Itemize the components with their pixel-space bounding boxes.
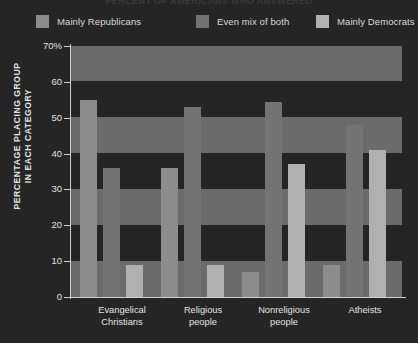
legend-item-even-mix-of-both[interactable]: Even mix of both xyxy=(196,13,289,29)
y-tick xyxy=(64,118,70,119)
bar-religious-people-mainly-democrats[interactable] xyxy=(207,265,224,297)
bar-atheists-even-mix-of-both[interactable] xyxy=(346,125,363,297)
bar-nonreligious-people-even-mix-of-both[interactable] xyxy=(265,102,282,298)
x-label-line2: people xyxy=(270,317,298,327)
x-tick-label-atheists: Atheists xyxy=(321,304,409,316)
y-tick-label: 30 xyxy=(12,183,62,194)
x-label-line2: Christians xyxy=(101,317,142,327)
y-tick-label: 60 xyxy=(12,76,62,87)
x-label-line1: Religious xyxy=(184,305,222,315)
bar-nonreligious-people-mainly-democrats[interactable] xyxy=(288,164,305,297)
bar-chart: PERCENT OF AMERICANS WHO ANSWERED Mainly… xyxy=(0,0,418,343)
y-tick-label: 70% xyxy=(12,40,62,51)
y-tick-label: 10 xyxy=(12,255,62,266)
legend-label: Mainly Democrats xyxy=(337,16,415,27)
bar-evangelical-christians-even-mix-of-both[interactable] xyxy=(103,168,120,297)
plot-band xyxy=(70,46,402,81)
legend-item-mainly-democrats[interactable]: Mainly Democrats xyxy=(316,13,415,29)
bar-atheists-mainly-republicans[interactable] xyxy=(323,265,340,297)
x-axis-line xyxy=(68,297,406,298)
legend-swatch-icon xyxy=(196,15,209,28)
chart-title: PERCENT OF AMERICANS WHO ANSWERED xyxy=(0,0,418,6)
legend-swatch-icon xyxy=(36,15,49,28)
y-tick-label: 50 xyxy=(12,112,62,123)
y-tick xyxy=(64,189,70,190)
chart-legend: Mainly Republicans Even mix of both Main… xyxy=(36,13,396,29)
y-tick xyxy=(64,261,70,262)
bar-religious-people-even-mix-of-both[interactable] xyxy=(184,107,201,297)
bar-religious-people-mainly-republicans[interactable] xyxy=(161,168,178,297)
y-tick xyxy=(64,82,70,83)
bar-atheists-mainly-democrats[interactable] xyxy=(369,150,386,297)
y-tick-label: 40 xyxy=(12,148,62,159)
x-label-line1: Atheists xyxy=(348,305,381,315)
y-axis-title-line2: IN EACH CATEGORY xyxy=(23,89,33,183)
x-tick-label-religious-people: Religious people xyxy=(159,304,247,328)
y-tick xyxy=(64,225,70,226)
bar-evangelical-christians-mainly-democrats[interactable] xyxy=(126,265,143,297)
legend-item-mainly-republicans[interactable]: Mainly Republicans xyxy=(36,13,141,29)
y-tick xyxy=(64,154,70,155)
x-label-line1: Evangelical xyxy=(98,305,146,315)
x-tick-label-evangelical-christians: Evangelical Christians xyxy=(78,304,166,328)
x-tick-label-nonreligious-people: Nonreligious people xyxy=(240,304,328,328)
x-label-line2: people xyxy=(189,317,217,327)
y-tick-label: 20 xyxy=(12,219,62,230)
legend-label: Even mix of both xyxy=(217,16,289,27)
x-label-line1: Nonreligious xyxy=(258,305,310,315)
y-tick xyxy=(64,46,70,47)
y-tick xyxy=(64,297,70,298)
y-tick-label: 0 xyxy=(12,291,62,302)
legend-swatch-icon xyxy=(316,15,329,28)
y-axis-line xyxy=(70,44,71,299)
plot-area xyxy=(70,46,402,297)
legend-label: Mainly Republicans xyxy=(57,16,141,27)
bar-evangelical-christians-mainly-republicans[interactable] xyxy=(80,100,97,297)
y-axis-title: PERCENTAGE PLACING GROUP IN EACH CATEGOR… xyxy=(12,41,34,231)
bar-nonreligious-people-mainly-republicans[interactable] xyxy=(242,272,259,297)
